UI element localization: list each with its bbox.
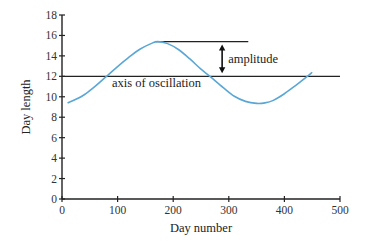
y-tick-label: 0 xyxy=(51,193,57,205)
y-tick-label: 4 xyxy=(51,152,57,164)
axis-of-oscillation-label: axis of oscillation xyxy=(112,76,202,90)
x-tick-label: 300 xyxy=(220,204,238,216)
y-tick-label: 14 xyxy=(46,50,58,62)
x-axis-title: Day number xyxy=(170,221,233,235)
x-tick-label: 200 xyxy=(165,204,183,216)
day-length-curve xyxy=(68,42,313,104)
x-tick-label: 400 xyxy=(276,204,294,216)
y-tick-label: 10 xyxy=(46,91,58,103)
y-axis-title: Day length xyxy=(19,79,33,135)
x-tick-label: 0 xyxy=(59,204,65,216)
x-tick-label: 100 xyxy=(109,204,127,216)
y-tick-label: 12 xyxy=(46,70,58,82)
y-tick-label: 2 xyxy=(51,173,57,185)
amplitude-double-arrow-icon xyxy=(219,45,225,74)
y-tick-label: 6 xyxy=(51,132,57,144)
y-tick-label: 16 xyxy=(46,29,58,41)
y-tick-label: 18 xyxy=(46,9,58,21)
x-tick-label: 500 xyxy=(331,204,349,216)
y-tick-label: 8 xyxy=(51,111,57,123)
day-length-chart: 024681012141618 0100200300400500 amplitu… xyxy=(0,0,369,245)
amplitude-label: amplitude xyxy=(228,52,278,66)
